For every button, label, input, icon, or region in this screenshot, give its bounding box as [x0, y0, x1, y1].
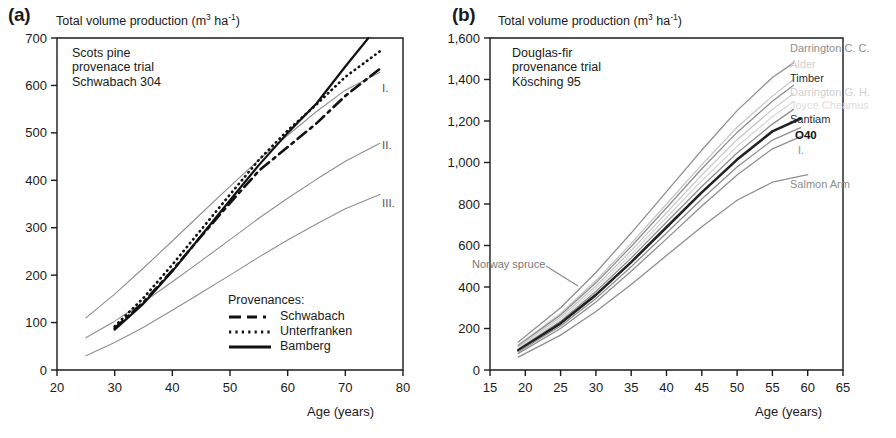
svg-text:70: 70: [338, 380, 352, 395]
svg-text:35: 35: [624, 380, 638, 395]
svg-text:400: 400: [25, 173, 47, 188]
legend-label-schwabach: Schwabach: [280, 309, 345, 324]
svg-text:200: 200: [458, 321, 480, 336]
svg-text:1,400: 1,400: [447, 72, 480, 87]
svg-text:300: 300: [25, 220, 47, 235]
curve-salmon-arm: [518, 175, 807, 358]
legend-label-unterfranken: Unterfranken: [280, 324, 352, 339]
curve-i: [518, 128, 800, 352]
svg-text:700: 700: [25, 31, 47, 46]
panel-a-yield-class-3: III.: [382, 197, 395, 209]
svg-text:50: 50: [730, 380, 744, 395]
panel-a-yield-class-2: II.: [382, 139, 392, 151]
series-label-o40: O40: [795, 129, 817, 141]
panel-b-callout-leader: [546, 266, 578, 286]
curve-darrington-c-c: [518, 63, 793, 342]
svg-text:30: 30: [589, 380, 603, 395]
svg-text:600: 600: [25, 78, 47, 93]
panel-a-x-axis-label: Age (years): [307, 404, 374, 419]
legend-key-dashdot: [228, 311, 274, 322]
panel-b-norway-spruce-callout: Norway spruce: [472, 258, 545, 270]
series-label-joyce-cheamus: Joyce Cheamus: [790, 99, 869, 111]
legend-label-bamberg: Bamberg: [280, 339, 331, 354]
series-label-santiam: Santiam: [790, 113, 830, 125]
svg-text:800: 800: [458, 197, 480, 212]
svg-text:400: 400: [458, 280, 480, 295]
legend-key-dotted: [228, 326, 274, 337]
curve-schwabach: [115, 69, 380, 328]
legend-row-unterfranken: Unterfranken: [228, 324, 352, 339]
series-label-i: I.: [798, 144, 804, 156]
legend-title: Provenances:: [228, 293, 352, 307]
svg-text:500: 500: [25, 125, 47, 140]
panel-a-yield-class-1: I.: [382, 82, 388, 94]
svg-text:60: 60: [280, 380, 294, 395]
svg-text:200: 200: [25, 268, 47, 283]
legend-key-solid: [228, 341, 274, 352]
svg-text:40: 40: [659, 380, 673, 395]
svg-text:15: 15: [483, 380, 497, 395]
svg-text:55: 55: [765, 380, 779, 395]
curve-unterfranken: [115, 51, 380, 326]
svg-text:25: 25: [553, 380, 567, 395]
series-label-darrington-cc: Darrington C. C.: [790, 42, 869, 54]
panel-b-douglas-fir: (b) Total volume production (m3 ha-1) 02…: [450, 0, 896, 438]
svg-text:20: 20: [50, 380, 64, 395]
svg-text:80: 80: [396, 380, 410, 395]
svg-text:20: 20: [518, 380, 532, 395]
svg-text:100: 100: [25, 315, 47, 330]
panel-b-curves: [518, 63, 807, 357]
svg-text:40: 40: [165, 380, 179, 395]
series-label-salmon-arm: Salmon Arm: [790, 178, 850, 190]
figure-two-panel-growth-curves: (a) Total volume production (m3 ha-1) 01…: [0, 0, 896, 438]
panel-b-x-axis-label: Age (years): [755, 404, 822, 419]
svg-text:50: 50: [223, 380, 237, 395]
svg-text:45: 45: [695, 380, 709, 395]
series-label-timber: Timber: [790, 72, 824, 84]
panel-a-legend: Provenances: Schwabach Unterfranken Bamb…: [228, 293, 352, 354]
svg-text:0: 0: [40, 363, 47, 378]
legend-row-schwabach: Schwabach: [228, 309, 352, 324]
svg-text:1,200: 1,200: [447, 114, 480, 129]
panel-a-note: Scots pine provenace trial Schwabach 304: [72, 46, 161, 89]
svg-text:600: 600: [458, 238, 480, 253]
svg-text:1,000: 1,000: [447, 155, 480, 170]
panel-a-plot-svg: 010020030040050060070020304050607080: [0, 0, 450, 438]
svg-text:60: 60: [800, 380, 814, 395]
series-label-alder: Alder: [790, 58, 816, 70]
series-label-darrington-gh: Darrington G. H.: [790, 86, 870, 98]
svg-text:1,600: 1,600: [447, 31, 480, 46]
svg-text:0: 0: [473, 363, 480, 378]
svg-text:30: 30: [107, 380, 121, 395]
panel-b-note: Douglas-fir provenance trial Kösching 95: [512, 46, 601, 89]
panel-a-scots-pine: (a) Total volume production (m3 ha-1) 01…: [0, 0, 450, 438]
legend-row-bamberg: Bamberg: [228, 339, 352, 354]
svg-text:65: 65: [836, 380, 850, 395]
